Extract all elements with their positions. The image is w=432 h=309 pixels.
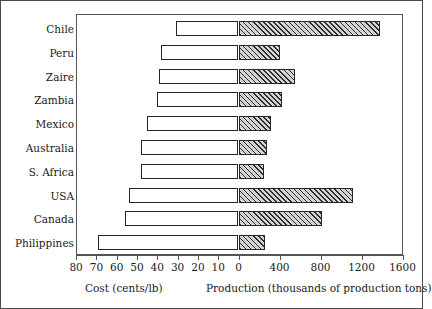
cost-40-tick <box>157 255 158 260</box>
production-1200-tick <box>362 255 363 260</box>
category-label-mexico: Mexico <box>0 112 74 136</box>
production-axis-title: Production (thousands of production tons… <box>206 282 432 294</box>
plot-area-frame <box>76 14 403 255</box>
production-1200-tick-label: 1200 <box>342 261 382 273</box>
category-label-zambia: Zambia <box>0 88 74 112</box>
category-label-usa: USA <box>0 184 74 208</box>
production-800-tick <box>321 255 322 260</box>
production-400-tick-label: 400 <box>260 261 300 273</box>
production-1600-tick-label: 1600 <box>383 261 423 273</box>
production-1600-tick <box>403 255 404 260</box>
cost-0-tick <box>239 255 240 260</box>
x-axis-line <box>76 255 403 256</box>
category-label-australia: Australia <box>0 136 74 160</box>
category-label-chile: Chile <box>0 17 74 41</box>
cost-30-tick <box>178 255 179 260</box>
production-400-tick <box>280 255 281 260</box>
cost-70-tick <box>96 255 97 260</box>
cost-80-tick <box>76 255 77 260</box>
category-label-philippines: Philippines <box>0 231 74 255</box>
cost-10-tick <box>218 255 219 260</box>
category-label-zaire: Zaire <box>0 65 74 89</box>
cost-60-tick <box>117 255 118 260</box>
cost-20-tick <box>198 255 199 260</box>
cost-0-tick-label: 0 <box>219 261 259 273</box>
cost-axis-title: Cost (cents/lb) <box>85 282 163 294</box>
category-label-peru: Peru <box>0 41 74 65</box>
production-800-tick-label: 800 <box>301 261 341 273</box>
cost-50-tick <box>137 255 138 260</box>
category-label-s-africa: S. Africa <box>0 160 74 184</box>
category-label-canada: Canada <box>0 207 74 231</box>
